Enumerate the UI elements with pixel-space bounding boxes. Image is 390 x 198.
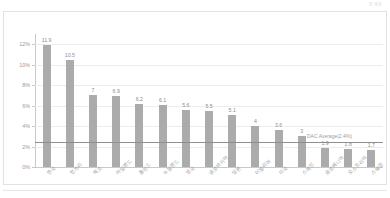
header-strip: 통계청 [0, 0, 390, 11]
y-axis-label: 0% [22, 164, 30, 170]
bar-value-label: 4 [254, 118, 257, 124]
bar[interactable] [89, 95, 97, 167]
dac-average-reference-line [35, 142, 383, 143]
y-axis-tick [32, 147, 35, 148]
gridline [35, 85, 383, 86]
bar[interactable] [228, 115, 236, 167]
bar-value-label: 6.2 [136, 96, 143, 102]
y-axis-label: 12% [19, 41, 30, 47]
bar[interactable] [112, 96, 120, 167]
y-axis-label: 8% [22, 82, 30, 88]
bar[interactable] [275, 130, 283, 167]
chart-page: 통계청 0%2%4%6%8%10%12%11.9한국10.5헝가리7체코6.9아… [0, 0, 390, 198]
y-axis-label: 4% [22, 123, 30, 129]
bar[interactable] [159, 105, 167, 167]
gridline [35, 44, 383, 45]
bar-value-label: 5.6 [182, 102, 189, 108]
bar[interactable] [321, 148, 329, 167]
plot-area: 0%2%4%6%8%10%12%11.9한국10.5헝가리7체코6.9아일랜드6… [35, 34, 383, 167]
bar-value-label: 6.9 [113, 88, 120, 94]
y-axis-tick [32, 126, 35, 127]
bar-value-label: 3.6 [275, 122, 282, 128]
bar[interactable] [66, 60, 74, 167]
y-axis-tick [32, 85, 35, 86]
bar[interactable] [182, 110, 190, 167]
y-axis-tick [32, 44, 35, 45]
bar-value-label: 5.1 [229, 107, 236, 113]
bar-value-label: 6.1 [159, 97, 166, 103]
bar[interactable] [43, 45, 51, 167]
corner-note: 통계청 [369, 1, 382, 7]
bar-value-label: 11.9 [42, 37, 52, 43]
bar-value-label: 10.5 [65, 52, 75, 58]
bar[interactable] [251, 126, 259, 167]
dac-average-label: DAC Average(2.4%) [307, 133, 352, 139]
bar-value-label: 7 [92, 87, 95, 93]
y-axis-label: 2% [22, 144, 30, 150]
y-axis-tick [32, 106, 35, 107]
bar[interactable] [298, 136, 306, 167]
bar[interactable] [135, 104, 143, 167]
y-axis-tick [32, 167, 35, 168]
bottom-divider [3, 190, 387, 191]
chart-card: 0%2%4%6%8%10%12%11.9한국10.5헝가리7체코6.9아일랜드6… [3, 11, 387, 185]
y-axis-label: 10% [19, 62, 30, 68]
bar-value-label: 3 [300, 128, 303, 134]
bar[interactable] [205, 111, 213, 167]
y-axis-tick [32, 65, 35, 66]
y-axis-label: 6% [22, 103, 30, 109]
gridline [35, 65, 383, 66]
bar-value-label: 5.5 [205, 103, 212, 109]
